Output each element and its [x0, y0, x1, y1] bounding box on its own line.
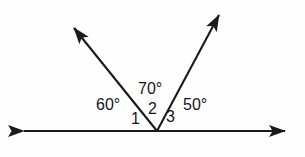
angle-number-label-3: 3 [166, 109, 175, 125]
angle-measure-label-50: 50° [183, 97, 207, 113]
angle-number-label-1: 1 [131, 111, 140, 127]
angle-number-label-2: 2 [148, 101, 157, 117]
diagram-canvas [0, 0, 305, 157]
angle-measure-label-60: 60° [96, 97, 120, 113]
angles-diagram: 60° 70° 50° 1 2 3 [0, 0, 305, 157]
angle-measure-label-70: 70° [138, 81, 162, 97]
